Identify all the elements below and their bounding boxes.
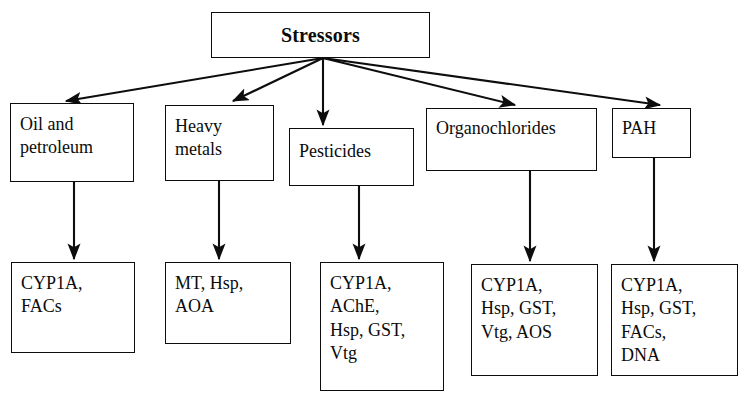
node-heavy-metals[interactable]: Heavy metals — [165, 105, 274, 181]
node-pah[interactable]: PAH — [612, 108, 691, 158]
node-biomarkers-pah[interactable]: CYP1A, Hsp, GST, FACs, DNA — [611, 264, 738, 376]
node-biomarkers-pesticides[interactable]: CYP1A, AChE, Hsp, GST, Vtg — [320, 262, 444, 391]
arrow-root-to-pah — [323, 58, 660, 105]
node-oil-and-petroleum-label: Oil and petroleum — [20, 113, 129, 160]
node-pesticides[interactable]: Pesticides — [289, 128, 414, 186]
node-biomarkers-pah-label: CYP1A, Hsp, GST, FACs, DNA — [621, 274, 733, 368]
node-biomarkers-oil[interactable]: CYP1A, FACs — [11, 262, 135, 353]
node-biomarkers-organochlorides[interactable]: CYP1A, Hsp, GST, Vtg, AOS — [471, 264, 598, 376]
node-biomarkers-heavy-metals[interactable]: MT, Hsp, AOA — [165, 262, 291, 344]
node-stressors[interactable]: Stressors — [211, 12, 430, 58]
node-stressors-label: Stressors — [212, 22, 429, 48]
arrow-root-to-heavy — [233, 58, 323, 101]
node-heavy-metals-label: Heavy metals — [175, 115, 269, 162]
node-biomarkers-pesticides-label: CYP1A, AChE, Hsp, GST, Vtg — [330, 272, 439, 366]
node-pah-label: PAH — [622, 117, 686, 140]
node-pesticides-label: Pesticides — [299, 140, 409, 163]
arrow-root-to-oil — [66, 58, 323, 101]
diagram-canvas: Stressors Oil and petroleum Heavy metals… — [0, 0, 746, 397]
node-biomarkers-organochlorides-label: CYP1A, Hsp, GST, Vtg, AOS — [481, 274, 593, 344]
node-organochlorides-label: Organochlorides — [436, 117, 592, 140]
arrow-root-to-orga — [323, 58, 515, 105]
node-biomarkers-heavy-metals-label: MT, Hsp, AOA — [175, 272, 286, 319]
node-oil-and-petroleum[interactable]: Oil and petroleum — [10, 103, 134, 182]
node-biomarkers-oil-label: CYP1A, FACs — [21, 272, 130, 319]
node-organochlorides[interactable]: Organochlorides — [426, 108, 597, 171]
